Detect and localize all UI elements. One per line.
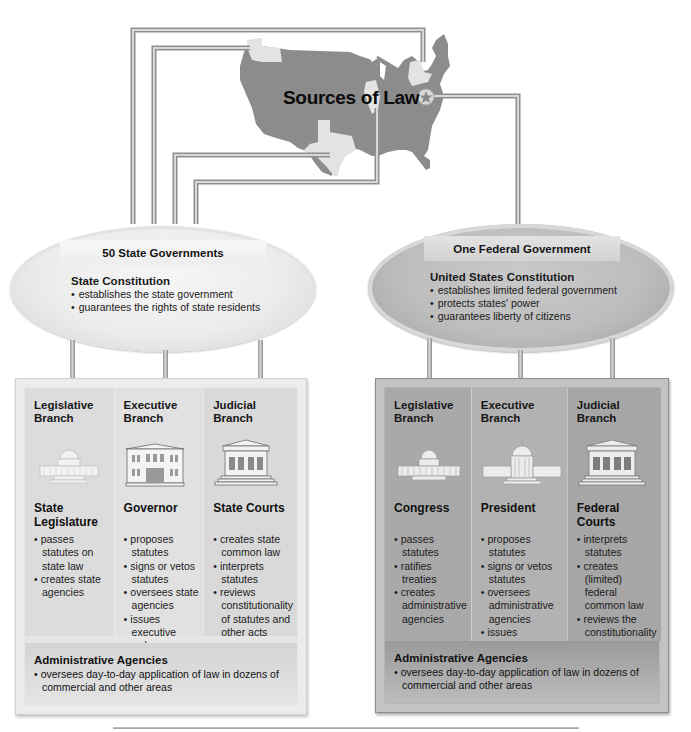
connector-rod — [258, 340, 263, 380]
federal-administrative-agencies: Administrative Agencies oversees day-to-… — [385, 641, 659, 703]
connector-rod — [427, 338, 432, 380]
branch-title: Executive Branch — [124, 399, 200, 429]
duty-item: signs or vetos statutes — [124, 560, 200, 587]
agencies-title: Administrative Agencies — [34, 654, 297, 668]
state-legislative-column: Legislative Branch State Legislature pas… — [25, 388, 114, 636]
federal-government-ellipse: One Federal Government United States Con… — [368, 224, 674, 352]
office-name: Congress — [394, 501, 467, 531]
federal-legislative-column: Legislative Branch Congress passes statu… — [385, 388, 471, 641]
branch-title: Judicial Branch — [577, 399, 657, 429]
office-name: State Courts — [213, 501, 293, 531]
connector-rod — [70, 340, 75, 380]
connector-rod — [163, 350, 168, 380]
courthouse-icon — [213, 435, 293, 493]
federal-connector — [434, 96, 518, 226]
government-building-icon — [124, 435, 200, 493]
federal-executive-column: Executive Branch President proposes stat… — [471, 388, 567, 641]
duties-list: proposes statutes signs or vetos statute… — [124, 533, 200, 653]
state-constitution-bullet: guarantees the rights of state residents — [71, 301, 260, 314]
state-branches-panel: Legislative Branch State Legislature pas… — [15, 378, 307, 715]
duty-item: creates administrative agencies — [394, 586, 467, 626]
duty-item: reviews constitutionality of statutes an… — [213, 586, 293, 639]
us-constitution-bullet: guarantees liberty of citizens — [430, 310, 617, 323]
duty-item: passes statutes on state law — [34, 533, 110, 573]
capitol-dome-icon — [394, 435, 467, 493]
office-name: State Legislature — [34, 501, 110, 531]
white-house-icon — [481, 435, 563, 493]
state-constitution-bullet: establishes the state government — [71, 288, 260, 301]
capitol-dome-icon — [34, 435, 110, 493]
us-constitution-bullet: establishes limited federal government — [430, 284, 617, 297]
agencies-bullet: oversees day-to-day application of law i… — [34, 668, 297, 695]
state-executive-column: Executive Branch Governor proposes statu… — [114, 388, 204, 636]
duty-item: signs or vetos statutes — [481, 560, 563, 587]
connector-rod — [518, 350, 523, 380]
duty-item: creates state common law — [213, 533, 293, 560]
agencies-title: Administrative Agencies — [394, 652, 659, 666]
branch-title: Legislative Branch — [394, 399, 467, 429]
us-constitution: United States Constitution establishes l… — [430, 270, 617, 323]
federal-heading: One Federal Government — [424, 236, 620, 261]
us-constitution-title: United States Constitution — [430, 270, 617, 284]
duty-item: proposes statutes — [481, 533, 563, 560]
footer-divider — [113, 727, 579, 729]
duty-item: passes statutes — [394, 533, 467, 560]
state-governments-ellipse: 50 State Governments State Constitution … — [10, 226, 316, 352]
agencies-bullet: oversees day-to-day application of law i… — [394, 666, 659, 693]
duty-item: ratifies treaties — [394, 560, 467, 587]
federal-branches-panel: Legislative Branch Congress passes statu… — [375, 378, 669, 713]
office-name: President — [481, 501, 563, 531]
branch-title: Executive Branch — [481, 399, 563, 429]
washington-state — [247, 38, 282, 62]
duties-list: creates state common law interprets stat… — [213, 533, 293, 639]
branch-title: Judicial Branch — [213, 399, 293, 429]
state-judicial-column: Judicial Branch State Courts creates sta… — [203, 388, 297, 636]
duty-item: creates state agencies — [34, 573, 110, 600]
office-name: Federal Courts — [577, 501, 657, 531]
state-constitution-title: State Constitution — [71, 274, 260, 288]
branch-title: Legislative Branch — [34, 399, 110, 429]
duties-list: passes statutes ratifies treaties create… — [394, 533, 467, 626]
state-heading: 50 State Governments — [60, 240, 266, 265]
duty-item: oversees state agencies — [124, 586, 200, 613]
state-constitution: State Constitution establishes the state… — [71, 274, 260, 314]
diagram-title: Sources of Law — [283, 87, 419, 109]
duty-item: interprets statutes — [213, 560, 293, 587]
duties-list: passes statutes on state law creates sta… — [34, 533, 110, 599]
state-administrative-agencies: Administrative Agencies oversees day-to-… — [25, 643, 297, 705]
duty-item: interprets statutes — [577, 533, 657, 560]
federal-judicial-column: Judicial Branch Federal Courts interpret… — [567, 388, 661, 641]
connector-rod — [610, 338, 615, 380]
duty-item: oversees administrative agencies — [481, 586, 563, 626]
us-constitution-bullet: protects states' power — [430, 297, 617, 310]
duty-item: proposes statutes — [124, 533, 200, 560]
office-name: Governor — [124, 501, 200, 531]
duty-item: creates (limited) federal common law — [577, 560, 657, 613]
courthouse-icon — [577, 435, 657, 493]
